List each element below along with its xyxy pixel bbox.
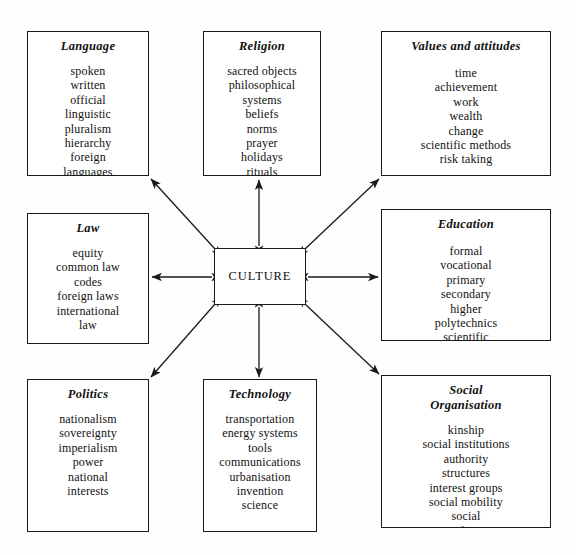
node-item: pluralism: [28, 122, 148, 136]
node-culture-center[interactable]: CULTURE: [214, 248, 306, 305]
node-values-and-attitudes[interactable]: Values and attitudes timeachievementwork…: [381, 31, 551, 176]
node-education-title: Education: [382, 217, 550, 231]
node-item: law: [28, 318, 148, 332]
node-law[interactable]: Law equitycommon lawcodesforeign lawsint…: [27, 213, 149, 344]
node-item: polytechnics: [382, 316, 550, 330]
node-item: rituals: [204, 165, 320, 176]
node-item: tools: [204, 441, 316, 455]
node-values-items: timeachievementworkwealthchangescientifi…: [382, 66, 550, 167]
connector-culture-language: [151, 179, 215, 249]
connector-culture-social: [305, 304, 379, 374]
node-item: power: [28, 455, 148, 469]
node-item: international: [28, 304, 148, 318]
node-item: work: [382, 95, 550, 109]
node-item: sacred objects: [204, 64, 320, 78]
node-item: linguistic: [28, 107, 148, 121]
node-item: common law: [28, 260, 148, 274]
node-item: foreign laws: [28, 289, 148, 303]
node-law-items: equitycommon lawcodesforeign lawsinterna…: [28, 246, 148, 332]
diagram-canvas: Language spokenwrittenofficiallinguistic…: [0, 0, 576, 555]
node-item: national: [28, 470, 148, 484]
node-item: languages: [28, 165, 148, 176]
node-item: nationalism: [28, 412, 148, 426]
node-item: spoken: [28, 64, 148, 78]
node-item: norms: [204, 122, 320, 136]
node-item: risk taking: [382, 152, 550, 166]
node-social-items: kinshipsocial institutionsauthoritystruc…: [382, 423, 550, 528]
node-item: equity: [28, 246, 148, 260]
node-religion-items: sacred objectsphilosophicalsystemsbelief…: [204, 64, 320, 176]
node-item: authority: [382, 452, 550, 466]
node-item: social mobility: [382, 495, 550, 509]
node-item: communications: [204, 455, 316, 469]
connector-culture-values: [305, 179, 379, 249]
node-politics[interactable]: Politics nationalismsovereigntyimperiali…: [27, 379, 149, 532]
node-item: official: [28, 93, 148, 107]
node-item: interests: [28, 484, 148, 498]
node-item: interest groups: [382, 481, 550, 495]
node-technology[interactable]: Technology transportationenergy systemst…: [203, 379, 317, 532]
node-item: hierarchy: [28, 136, 148, 150]
node-culture-label: CULTURE: [229, 269, 292, 284]
node-values-title: Values and attitudes: [382, 39, 550, 53]
node-item: satisfaction: [382, 524, 550, 528]
node-item: urbanisation: [204, 470, 316, 484]
node-language[interactable]: Language spokenwrittenofficiallinguistic…: [27, 31, 149, 176]
node-item: foreign: [28, 150, 148, 164]
node-politics-items: nationalismsovereigntyimperialismpowerna…: [28, 412, 148, 498]
node-item: prayer: [204, 136, 320, 150]
node-item: change: [382, 124, 550, 138]
node-language-title: Language: [28, 39, 148, 53]
node-item: scientific methods: [382, 138, 550, 152]
node-item: wealth: [382, 109, 550, 123]
node-item: sovereignty: [28, 426, 148, 440]
node-item: social institutions: [382, 437, 550, 451]
node-item: achievement: [382, 80, 550, 94]
node-item: formal: [382, 244, 550, 258]
node-item: holidays: [204, 150, 320, 164]
node-social-title: Social Organisation: [382, 383, 550, 413]
node-item: time: [382, 66, 550, 80]
node-religion[interactable]: Religion sacred objectsphilosophicalsyst…: [203, 31, 321, 176]
node-item: secondary: [382, 287, 550, 301]
node-religion-title: Religion: [204, 39, 320, 53]
node-education-items: formalvocationalprimarysecondaryhigherpo…: [382, 244, 550, 341]
node-item: systems: [204, 93, 320, 107]
node-item: written: [28, 78, 148, 92]
node-item: scientific: [382, 330, 550, 341]
node-law-title: Law: [28, 221, 148, 235]
node-item: imperialism: [28, 441, 148, 455]
node-item: beliefs: [204, 107, 320, 121]
node-item: primary: [382, 273, 550, 287]
node-politics-title: Politics: [28, 387, 148, 401]
node-item: codes: [28, 275, 148, 289]
node-item: invention: [204, 484, 316, 498]
node-item: structures: [382, 466, 550, 480]
node-item: science: [204, 498, 316, 512]
node-item: energy systems: [204, 426, 316, 440]
node-technology-items: transportationenergy systemstoolscommuni…: [204, 412, 316, 513]
node-item: philosophical: [204, 78, 320, 92]
node-item: social: [382, 509, 550, 523]
node-social-organisation[interactable]: Social Organisation kinshipsocial instit…: [381, 375, 551, 528]
node-item: higher: [382, 302, 550, 316]
node-education[interactable]: Education formalvocationalprimaryseconda…: [381, 209, 551, 341]
node-item: transportation: [204, 412, 316, 426]
connector-culture-politics: [151, 304, 215, 377]
node-technology-title: Technology: [204, 387, 316, 401]
node-language-items: spokenwrittenofficiallinguisticpluralism…: [28, 64, 148, 176]
node-item: kinship: [382, 423, 550, 437]
node-item: vocational: [382, 258, 550, 272]
